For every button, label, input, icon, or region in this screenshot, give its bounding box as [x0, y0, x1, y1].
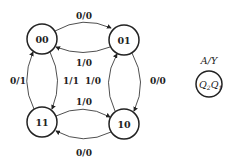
svg-text:01: 01 — [117, 35, 130, 46]
svg-text:1/0: 1/0 — [85, 76, 101, 86]
state-11: 11 — [27, 107, 57, 137]
svg-text:1/0: 1/0 — [76, 58, 92, 68]
svg-text:Q2Q1: Q2Q1 — [199, 79, 222, 91]
svg-text:A/Y: A/Y — [200, 55, 219, 66]
svg-text:0/1: 0/1 — [10, 76, 26, 86]
svg-text:0/0: 0/0 — [150, 76, 166, 86]
svg-text:10: 10 — [117, 119, 131, 130]
legend: A/Y Q2Q1 — [196, 55, 222, 97]
svg-text:11: 11 — [35, 117, 48, 128]
transition-10-11: 0/0 — [56, 131, 111, 158]
transition-11-10: 1/0 — [56, 97, 110, 117]
state-00: 00 — [27, 24, 57, 54]
svg-text:1/0: 1/0 — [76, 97, 92, 107]
svg-text:0/0: 0/0 — [76, 148, 92, 158]
transition-01-10: 0/0 — [132, 53, 166, 111]
svg-text:0/0: 0/0 — [76, 11, 92, 21]
svg-text:1/1: 1/1 — [63, 76, 79, 86]
state-10: 10 — [109, 109, 139, 139]
transition-11-00: 0/1 — [10, 52, 34, 109]
svg-text:00: 00 — [35, 34, 49, 45]
transition-01-00: 1/0 — [56, 47, 110, 68]
state-01: 01 — [109, 25, 139, 55]
transition-00-01: 0/0 — [55, 11, 111, 31]
transition-00-11: 1/1 — [50, 52, 79, 109]
state-diagram: 00 01 10 11 0/0 1/0 0/0 1/0 0/0 1/0 0/1 — [0, 0, 234, 158]
